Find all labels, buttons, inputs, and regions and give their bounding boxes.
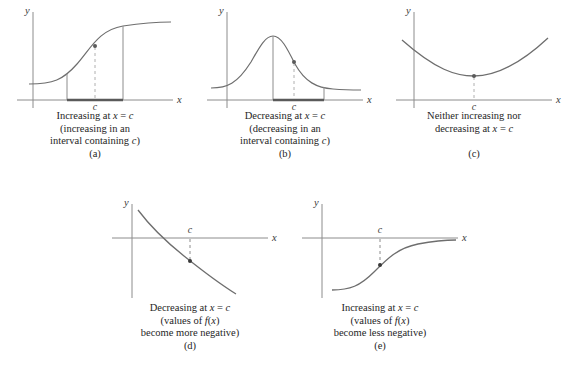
y-axis-label: y — [24, 5, 30, 16]
x-axis-label: x — [555, 94, 561, 105]
caption-line: (decreasing in an — [190, 123, 380, 136]
panel-b: c x y Decreasing at x = c(decreasing in … — [190, 4, 380, 160]
point-marker-c — [292, 60, 296, 64]
panel-a: c x y Increasing at x = c(increasing in … — [0, 4, 190, 160]
curve — [332, 240, 456, 290]
caption-line: (increasing in an — [0, 123, 190, 136]
panel-letter-d: (d) — [95, 340, 285, 353]
caption-e: Increasing at x = c(values of f(x)become… — [285, 302, 475, 340]
plot-a: c x y — [7, 4, 183, 110]
caption-line: Increasing at x = c — [285, 302, 475, 315]
y-axis-label: y — [313, 197, 319, 208]
point-marker-c — [472, 74, 476, 78]
caption-line: decreasing at x = c — [379, 123, 569, 136]
curve — [29, 22, 171, 84]
panel-d: c x y Decreasing at x = c(values of f(x)… — [95, 194, 285, 352]
curve — [211, 36, 361, 90]
figure-container: c x y Increasing at x = c(increasing in … — [0, 0, 569, 378]
caption-line: become more negative) — [95, 327, 285, 340]
x-axis-label: x — [176, 94, 182, 105]
caption-line: Increasing at x = c — [0, 110, 190, 123]
x-axis-label: x — [366, 94, 372, 105]
point-marker-c — [188, 259, 192, 263]
panel-c: c x y Neither increasing nordecreasing a… — [379, 4, 569, 161]
tick-label-c: c — [378, 224, 383, 235]
x-axis-label: x — [271, 232, 277, 243]
caption-a: Increasing at x = c(increasing in aninte… — [0, 110, 190, 148]
caption-line: Neither increasing nor — [379, 110, 569, 123]
panel-letter-e: (e) — [285, 340, 475, 353]
panel-letter-a: (a) — [0, 148, 190, 161]
curve — [138, 210, 236, 294]
y-axis-label: y — [405, 5, 411, 16]
caption-line: interval containing c) — [190, 135, 380, 148]
x-axis-label: x — [461, 232, 467, 243]
panel-letter-b: (b) — [190, 148, 380, 161]
tick-label-c: c — [188, 224, 193, 235]
caption-line: interval containing c) — [0, 135, 190, 148]
panel-letter-c: (c) — [379, 148, 569, 161]
point-marker-c — [93, 44, 97, 48]
caption-b: Decreasing at x = c(decreasing in aninte… — [190, 110, 380, 148]
caption-line: Decreasing at x = c — [95, 302, 285, 315]
plot-c: c x y — [386, 4, 562, 110]
tick-label-c: c — [472, 101, 477, 110]
plot-d: c x y — [102, 194, 278, 302]
point-marker-c — [378, 263, 382, 267]
plot-e: c x y — [292, 194, 468, 302]
caption-d: Decreasing at x = c(values of f(x)become… — [95, 302, 285, 340]
panel-e: c x y Increasing at x = c(values of f(x)… — [285, 194, 475, 352]
y-axis-label: y — [218, 5, 224, 16]
tick-label-c: c — [292, 101, 297, 110]
y-axis-label: y — [123, 197, 129, 208]
plot-b: c x y — [197, 4, 373, 110]
tick-label-c: c — [93, 101, 98, 110]
caption-line: become less negative) — [285, 327, 475, 340]
caption-line: Decreasing at x = c — [190, 110, 380, 123]
caption-line: (values of f(x) — [285, 315, 475, 328]
curve — [402, 38, 548, 76]
caption-c: Neither increasing nordecreasing at x = … — [379, 110, 569, 135]
caption-line: (values of f(x) — [95, 315, 285, 328]
